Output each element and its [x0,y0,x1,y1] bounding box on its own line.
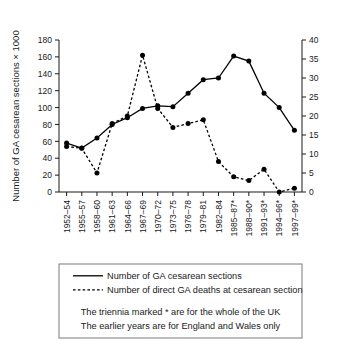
x-axis-tick-label: 1952–54 [62,200,72,233]
data-point-marker [186,121,191,126]
data-point-marker [140,53,145,58]
data-point-marker [246,178,251,183]
data-point-marker [231,174,236,179]
data-point-marker [246,59,251,64]
x-axis-tick-label: 1961–63 [107,200,117,233]
data-point-marker [201,77,206,82]
y-axis-tick-label-left: 120 [38,86,52,96]
data-point-marker [110,121,115,126]
x-axis-tick-label: 1964–66 [123,200,133,233]
data-point-marker [216,159,221,164]
chart-figure: 0204060801001201401601800510152025303540… [0,0,348,352]
line-chart: 0204060801001201401601800510152025303540… [0,0,348,352]
data-point-marker [201,117,206,122]
x-axis-tick-label: 1985–87* [229,199,239,236]
y-axis-tick-label-left: 60 [43,137,53,147]
data-point-marker [216,76,221,81]
x-axis-tick-label: 1982–84 [214,200,224,233]
data-point-marker [292,128,297,133]
x-axis-tick-label: 1988–90* [244,199,254,236]
y-axis-tick-label-right: 35 [309,54,319,64]
y-axis-tick-label-left: 20 [43,170,53,180]
y-axis-tick-label-right: 25 [309,92,319,102]
data-point-marker [94,135,99,140]
x-axis-tick-label: 1991–93* [259,199,269,236]
x-axis-tick-label: 1970–72 [153,200,163,233]
y-axis-tick-label-right: 0 [309,187,314,197]
data-point-marker [170,104,175,109]
y-axis-tick-label-left: 40 [43,153,53,163]
x-axis-tick-label: 1997–99* [290,199,300,236]
data-point-marker [277,105,282,110]
data-point-marker [170,125,175,130]
y-axis-tick-label-right: 20 [309,111,319,121]
data-point-marker [79,146,84,151]
data-point-marker [140,106,145,111]
data-point-marker [231,54,236,59]
y-axis-tick-label-left: 140 [38,69,52,79]
y-axis-tick-label-right: 5 [309,168,314,178]
x-axis-tick-label: 1994–96* [274,199,284,236]
y-axis-tick-label-left: 100 [38,103,52,113]
legend-note-2: The earlier years are for England and Wa… [81,321,281,331]
y-axis-tick-label-left: 0 [47,187,52,197]
x-axis-tick-label: 1979–81 [198,200,208,233]
data-point-marker [64,144,69,149]
data-point-marker [262,167,267,172]
y-axis-tick-label-right: 10 [309,149,319,159]
legend-label-1: Number of GA cesarean sections [107,271,242,281]
x-axis-tick-label: 1955–57 [77,200,87,233]
y-axis-tick-label-right: 15 [309,130,319,140]
series-line-2 [67,55,295,192]
legend-label-2: Number of direct GA deaths at cesarean s… [107,285,303,295]
legend-note-1: The triennia marked * are for the whole … [81,307,282,317]
y-axis-tick-label-right: 30 [309,73,319,83]
x-axis-tick-label: 1976–78 [183,200,193,233]
x-axis-tick-label: 1967–69 [138,200,148,233]
data-point-marker [262,91,267,96]
data-point-marker [155,106,160,111]
x-axis-tick-label: 1973–75 [168,200,178,233]
data-point-marker [125,114,130,119]
y-axis-tick-label-left: 80 [43,120,53,130]
data-point-marker [94,171,99,176]
data-point-marker [277,190,282,195]
y-axis-title: Number of GA cesarean sections × 1000 [10,30,21,201]
y-axis-tick-label-right: 40 [309,35,319,45]
data-point-marker [292,186,297,191]
data-point-marker [186,91,191,96]
x-axis-tick-label: 1958–60 [92,200,102,233]
y-axis-tick-label-left: 180 [38,35,52,45]
y-axis-tick-label-left: 160 [38,52,52,62]
series-line-1 [67,56,295,148]
